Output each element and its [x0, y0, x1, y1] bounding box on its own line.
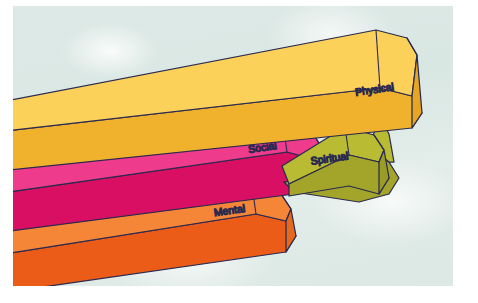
four-dimensions-illustration: Mental Social Spiritual: [0, 0, 478, 303]
figure-container: Mental Social Spiritual: [0, 0, 478, 303]
